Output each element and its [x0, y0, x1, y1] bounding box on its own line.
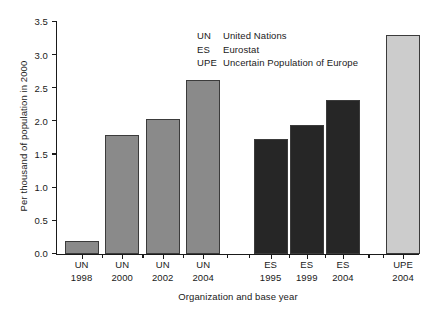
x-label-organization: UN [173, 259, 233, 272]
bar [186, 80, 220, 254]
legend: UNUnited NationsESEurostatUPEUncertain P… [197, 29, 358, 70]
x-axis-tick-label: UPE2004 [373, 259, 428, 284]
legend-description: Eurostat [223, 43, 259, 57]
y-axis-tick-label: 0.0 [34, 248, 48, 259]
x-axis-tick [289, 254, 290, 258]
bar [290, 125, 324, 254]
y-axis-tick-label: 1.0 [34, 182, 48, 193]
x-axis-tick [102, 254, 103, 258]
x-label-organization: UPE [373, 259, 428, 272]
y-axis-tick: 0.5 [52, 220, 57, 221]
legend-entry: UNUnited Nations [197, 29, 358, 43]
x-axis-tick [368, 254, 369, 258]
y-axis-tick: 3.5 [52, 21, 57, 22]
legend-entry: UPEUncertain Population of Europe [197, 56, 358, 70]
legend-entry: ESEurostat [197, 43, 358, 57]
bar [65, 241, 99, 254]
bar [254, 139, 288, 254]
legend-description: United Nations [223, 29, 287, 43]
y-axis-tick-label: 2.0 [34, 115, 48, 126]
y-axis-tick-label: 1.5 [34, 148, 48, 159]
x-label-year: 2004 [313, 272, 373, 285]
x-axis-tick [142, 254, 143, 258]
y-axis-tick: 0.0 [52, 253, 57, 254]
x-axis-tick [325, 254, 326, 258]
x-label-organization: ES [313, 259, 373, 272]
x-axis-tick [227, 254, 228, 258]
x-axis-tick-label: ES2004 [313, 259, 373, 284]
y-axis-tick: 1.5 [52, 153, 57, 154]
legend-abbreviation: UPE [197, 56, 223, 70]
legend-abbreviation: ES [197, 43, 223, 57]
x-axis-tick [249, 254, 250, 258]
legend-description: Uncertain Population of Europe [223, 56, 358, 70]
x-label-year: 2004 [173, 272, 233, 285]
x-axis-title: Organization and base year [57, 291, 419, 302]
bar [146, 119, 180, 254]
x-axis-tick [183, 254, 184, 258]
bar-chart-figure: Per thousand of population in 2000 0.00.… [0, 0, 428, 318]
y-axis-title: Per thousand of population in 2000 [16, 10, 32, 262]
y-axis-tick-label: 0.5 [34, 215, 48, 226]
y-axis-tick: 2.0 [52, 120, 57, 121]
bar [326, 100, 360, 254]
y-axis-tick: 1.0 [52, 187, 57, 188]
y-axis-tick-label: 3.5 [34, 16, 48, 27]
y-axis-tick: 3.0 [52, 54, 57, 55]
x-axis-tick [383, 254, 384, 258]
y-axis-tick: 2.5 [52, 87, 57, 88]
x-label-year: 2004 [373, 272, 428, 285]
bar [105, 135, 139, 254]
legend-abbreviation: UN [197, 29, 223, 43]
y-axis-tick-label: 2.5 [34, 82, 48, 93]
bar [386, 35, 420, 254]
y-axis-tick-label: 3.0 [34, 49, 48, 60]
x-axis-tick-label: UN2004 [173, 259, 233, 284]
